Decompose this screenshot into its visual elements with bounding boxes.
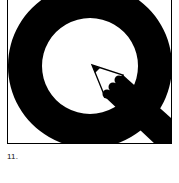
logo-frame	[7, 0, 172, 144]
figure-caption: 11.	[7, 152, 18, 161]
q-pencil-logo-icon	[8, 0, 172, 144]
